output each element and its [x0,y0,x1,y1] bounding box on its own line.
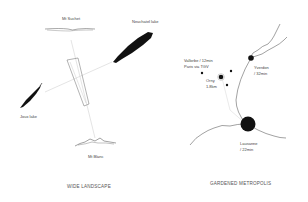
wide-landscape-diagram [20,29,153,147]
orny-dot [219,75,224,80]
shoreline-north [250,24,280,58]
lake-geneva-shore [190,124,286,145]
north-south-axis [71,40,95,138]
yverdon-dot [248,55,254,61]
lausanne-label-line2: / 22min [240,147,253,152]
orny-label-line1: Orny [206,78,215,83]
gardened-metropolis-title: GARDENED METROPOLIS [210,181,271,186]
vallorbe-label-line1: Vallorbe / 12min [184,58,213,63]
mt-blanc-label: Mt Blanc [88,154,104,159]
joux-lake-tail [40,83,42,86]
lausanne-label-line1: Lausanne [240,141,258,146]
lausanne-dot [241,117,256,132]
orny-label-line2: 1.8km [206,84,217,89]
vallorbe-dot [201,72,203,74]
gardened-metropolis-diagram [190,24,287,145]
yverdon-label-line2: / 32min [254,71,267,76]
neuchatel-lake-shape [113,32,153,63]
wide-landscape-title: WIDE LANDSCAPE [67,184,111,189]
east-west-axis [45,62,112,92]
orny-link [222,78,246,124]
vallorbe-label-line2: Paris via TGV [184,64,209,69]
joux-lake-label: Joux lake [20,114,37,119]
town-dot-south [226,84,228,86]
town-dot-east [230,70,232,72]
diagram-canvas [0,0,308,202]
mt-blanc-ridge [75,138,116,146]
yverdon-label-line1: Yverdon [254,65,269,70]
shoreline-east [250,37,287,58]
joux-lake-shape [20,85,41,108]
neuchatel-lake-label: Neuchatel lake [132,19,158,24]
mt-suchet-ridge-2 [47,30,93,31]
railway-line [236,58,251,124]
mt-suchet-ridge [45,29,95,31]
mt-suchet-label: Mt Suchet [62,16,80,21]
